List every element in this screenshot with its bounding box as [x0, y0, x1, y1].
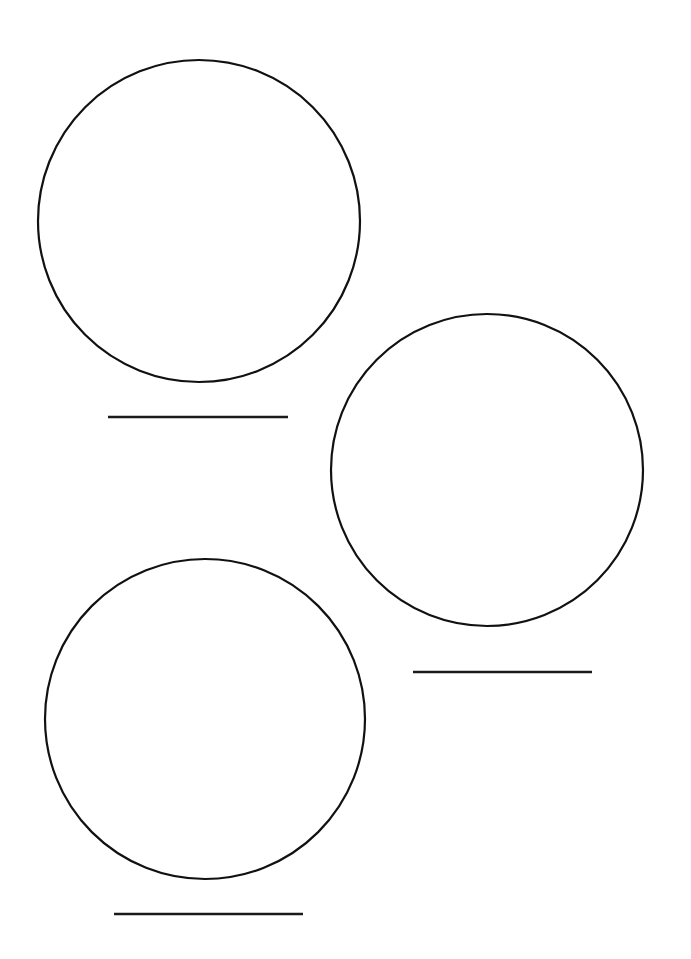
worksheet-page: [0, 0, 691, 959]
write-line-3-text: [114, 897, 115, 898]
write-line-2-text: [413, 655, 414, 656]
write-line-1-text: [108, 400, 109, 401]
worksheet-canvas: [0, 0, 691, 959]
page-background: [0, 0, 691, 959]
